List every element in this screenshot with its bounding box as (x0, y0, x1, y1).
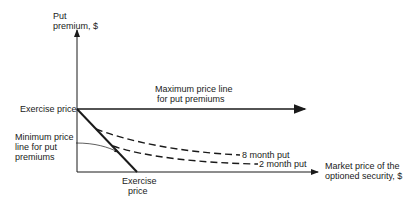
max-line-label-line2: for put premiums (157, 94, 225, 104)
x-axis-label-line1: Market price of the (325, 161, 400, 171)
label-2-month-put: 2 month put (259, 159, 307, 169)
min-line-label-line3: premiums (15, 152, 55, 162)
min-line-label-line1: Minimum price (15, 132, 74, 142)
y-axis-label-line1: Put (53, 11, 67, 21)
y-axis-label-line2: premium, $ (53, 21, 98, 31)
x-tick-exercise-label-line1: Exercise (122, 176, 157, 186)
minimum-price-line (77, 109, 137, 172)
max-line-label-line1: Maximum price line (155, 84, 233, 94)
y-tick-exercise-price: Exercise price (20, 104, 77, 114)
x-axis-label-line2: optioned security, $ (325, 171, 402, 181)
min-line-label-line2: line for put (15, 142, 57, 152)
x-tick-exercise-label-line2: price (128, 186, 148, 196)
